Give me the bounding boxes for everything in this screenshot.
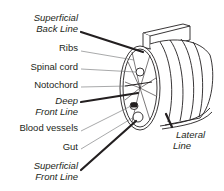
dorsal-ridge: [143, 24, 190, 36]
label-lateral-line: Lateral Line: [173, 129, 205, 151]
label-gut: Gut: [63, 141, 78, 152]
label-notochord: Notochord: [34, 79, 78, 90]
leader-ribs: [81, 51, 134, 60]
label-line-1: Lateral: [173, 129, 205, 140]
leader-superficial-back-line: [81, 32, 143, 52]
spinal-cord-shape: [136, 68, 144, 76]
label-superficial-front-line: Superficial Front Line: [34, 160, 78, 182]
label-line-1: Deep: [35, 95, 78, 106]
label-line-2: Front Line: [35, 106, 78, 117]
label-line-1: Superficial: [34, 12, 78, 23]
label-deep-front-line: Deep Front Line: [35, 95, 78, 117]
label-superficial-back-line: Superficial Back Line: [34, 12, 78, 34]
label-ribs: Ribs: [59, 42, 78, 53]
gut-shape: [133, 112, 143, 122]
leader-gut: [81, 117, 134, 149]
label-line-1: Superficial: [34, 160, 78, 171]
label-blood-vessels: Blood vessels: [19, 122, 78, 133]
leader-superficial-front-line: [81, 121, 136, 170]
label-line-2: Front Line: [34, 171, 78, 182]
label-line-2: Back Line: [34, 23, 78, 34]
leader-blood-vessels: [81, 106, 131, 131]
label-line-2: Line: [173, 140, 205, 151]
label-spinal-cord: Spinal cord: [30, 61, 78, 72]
